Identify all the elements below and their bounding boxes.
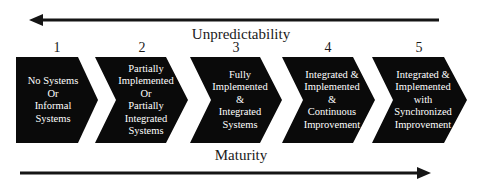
unpredictability-arrow bbox=[29, 14, 439, 26]
stage-number-3: 3 bbox=[226, 40, 246, 56]
stage-number-4: 4 bbox=[318, 40, 338, 56]
stage-number-2: 2 bbox=[132, 40, 152, 56]
stage-number-5: 5 bbox=[409, 40, 429, 56]
stage-text-5: Integrated & Implemented with Synchroniz… bbox=[383, 57, 463, 143]
stage-text-1: No Systems Or Informal Systems bbox=[18, 57, 88, 143]
stage-text-2: Partially Implemented Or Partially Integ… bbox=[108, 57, 184, 143]
stage-text-3: Fully Implemented & Integrated Systems bbox=[203, 57, 277, 143]
stage-text-4: Integrated & Implemented & Continuous Im… bbox=[293, 57, 371, 143]
maturity-arrow bbox=[20, 167, 431, 179]
maturity-label: Maturity bbox=[0, 147, 482, 164]
stage-number-1: 1 bbox=[47, 40, 67, 56]
